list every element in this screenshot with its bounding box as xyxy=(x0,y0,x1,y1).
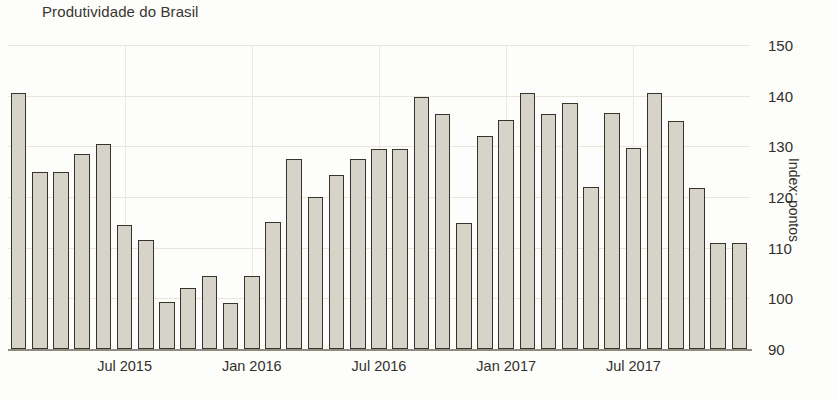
bar[interactable] xyxy=(477,136,493,349)
bar[interactable] xyxy=(583,187,599,349)
bar[interactable] xyxy=(647,93,663,349)
bar[interactable] xyxy=(626,148,642,349)
bar[interactable] xyxy=(604,113,620,349)
bar[interactable] xyxy=(74,154,90,349)
x-tick-label: Jan 2016 xyxy=(222,358,282,374)
bar[interactable] xyxy=(308,197,324,349)
bar[interactable] xyxy=(498,120,514,349)
bar[interactable] xyxy=(350,159,366,349)
x-tick-label: Jul 2015 xyxy=(97,358,152,374)
bar[interactable] xyxy=(541,114,557,349)
y-tick-label: 90 xyxy=(768,341,810,358)
y-tick-label: 130 xyxy=(768,138,810,155)
bar[interactable] xyxy=(456,223,472,349)
bar[interactable] xyxy=(710,243,726,349)
chart-title: Produtividade do Brasil xyxy=(42,3,199,20)
x-tick-label: Jan 2017 xyxy=(476,358,536,374)
bar[interactable] xyxy=(414,97,430,349)
bar[interactable] xyxy=(329,175,345,349)
bar[interactable] xyxy=(435,114,451,349)
bar[interactable] xyxy=(520,93,536,349)
x-tick-label: Jul 2016 xyxy=(352,358,407,374)
bar[interactable] xyxy=(159,302,175,349)
bar[interactable] xyxy=(562,103,578,349)
bar[interactable] xyxy=(244,276,260,349)
bar[interactable] xyxy=(11,93,27,349)
y-axis-title: Index: pontos xyxy=(786,158,802,242)
y-tick-label: 150 xyxy=(768,37,810,54)
bar[interactable] xyxy=(117,225,133,349)
chart-container: Produtividade do Brasil 9010011012013014… xyxy=(0,0,838,400)
x-axis-tick-labels: Jul 2015Jan 2016Jul 2016Jan 2017Jul 2017 xyxy=(0,358,760,382)
bar[interactable] xyxy=(180,288,196,349)
plot-area xyxy=(8,45,750,349)
bar[interactable] xyxy=(371,149,387,349)
y-tick-label: 140 xyxy=(768,87,810,104)
bar[interactable] xyxy=(286,159,302,349)
bar[interactable] xyxy=(668,121,684,349)
bar[interactable] xyxy=(202,276,218,349)
y-tick-label: 100 xyxy=(768,290,810,307)
bar[interactable] xyxy=(32,172,48,349)
bar[interactable] xyxy=(138,240,154,349)
bar[interactable] xyxy=(265,222,281,349)
bar[interactable] xyxy=(53,172,69,349)
bar[interactable] xyxy=(392,149,408,349)
bar-series xyxy=(8,45,750,349)
bar[interactable] xyxy=(689,188,705,349)
bar[interactable] xyxy=(732,243,748,349)
bar[interactable] xyxy=(96,144,112,349)
x-axis-line xyxy=(8,349,752,351)
x-tick-label: Jul 2017 xyxy=(606,358,661,374)
bar[interactable] xyxy=(223,303,239,349)
